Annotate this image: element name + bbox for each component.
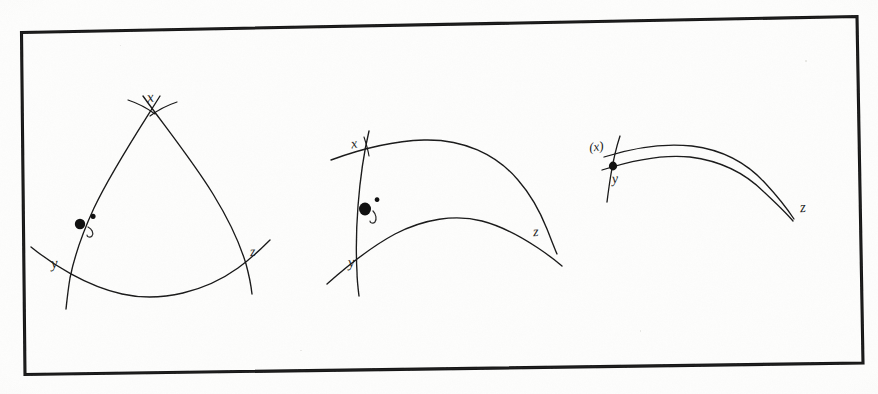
figure-canvas <box>0 0 878 394</box>
figure-2-label-y: y <box>347 255 355 271</box>
scan-speck <box>120 45 121 46</box>
figure-1-label-y: y <box>50 256 58 272</box>
figure-1-label-z: z <box>250 245 256 259</box>
figure-page: x y z x y z (x) y z <box>0 0 878 394</box>
figure-3-marked-point <box>609 162 617 171</box>
paper-grain <box>0 0 878 394</box>
figure-3-label-z: z <box>799 200 806 215</box>
scan-speck <box>640 330 641 332</box>
figure-2-label-z: z <box>533 225 539 239</box>
figure-3-label-y: y <box>611 172 618 186</box>
figure-3-label-x: (x) <box>588 139 604 154</box>
scan-speck <box>300 350 302 351</box>
scan-speck <box>805 60 807 62</box>
